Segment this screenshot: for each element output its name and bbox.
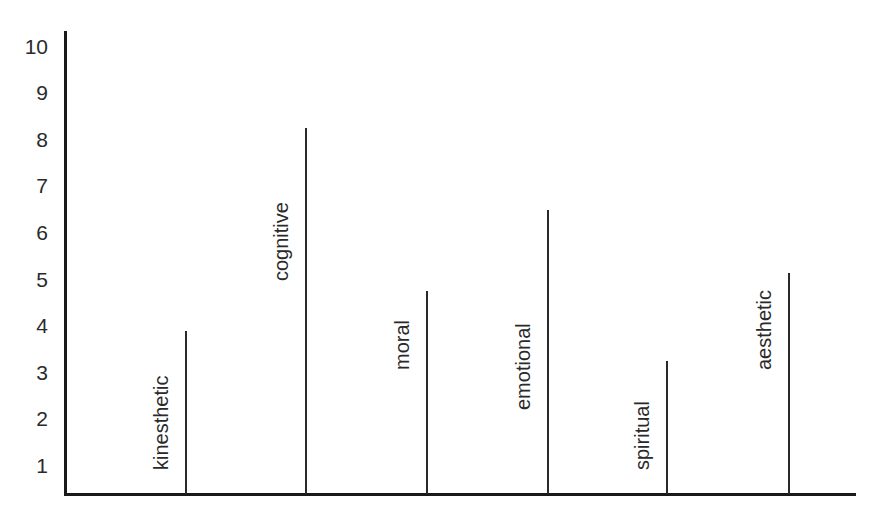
bar-kinesthetic <box>185 331 187 494</box>
bar-label-aesthetic: aesthetic <box>753 290 775 370</box>
x-axis-line <box>64 493 856 496</box>
y-tick-label: 2 <box>8 407 48 431</box>
chart-area: 1 2 3 4 5 6 7 8 9 10 kinesthetic cogniti… <box>0 0 879 518</box>
y-tick-label: 3 <box>8 361 48 385</box>
y-tick-label: 4 <box>8 314 48 338</box>
bar-label-kinesthetic: kinesthetic <box>150 376 172 471</box>
y-tick-label: 6 <box>8 221 48 245</box>
bar-label-moral: moral <box>391 320 413 370</box>
y-tick-label: 7 <box>8 174 48 198</box>
y-tick-label: 1 <box>8 454 48 478</box>
y-tick-label: 9 <box>8 81 48 105</box>
bar-emotional <box>547 210 549 494</box>
y-axis-line <box>64 31 67 496</box>
bar-aesthetic <box>788 273 790 494</box>
bar-label-cognitive: cognitive <box>270 202 292 281</box>
bar-spiritual <box>666 361 668 494</box>
y-tick-label: 8 <box>8 128 48 152</box>
y-tick-label: 5 <box>8 268 48 292</box>
y-tick-label: 10 <box>8 35 48 59</box>
bar-moral <box>426 291 428 494</box>
bar-cognitive <box>305 128 307 494</box>
bar-label-emotional: emotional <box>512 323 534 410</box>
bar-label-spiritual: spiritual <box>631 401 653 470</box>
